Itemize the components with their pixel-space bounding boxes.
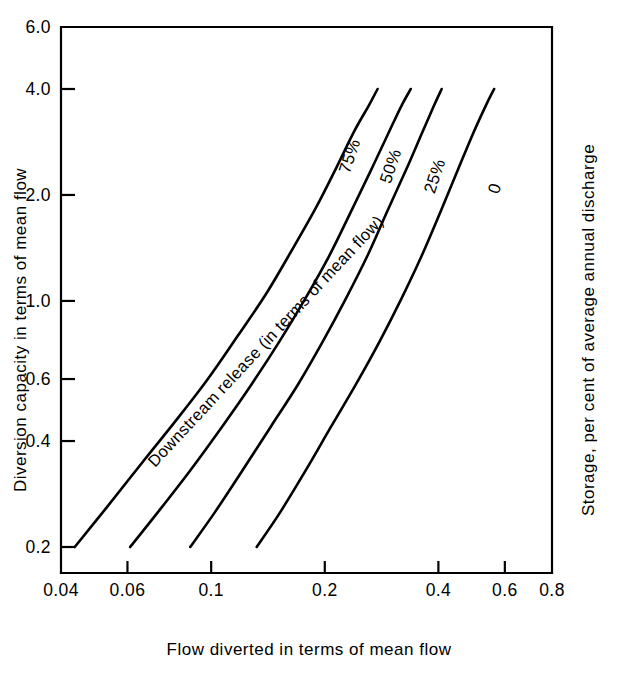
- y-tick-label: 6.0: [25, 17, 51, 37]
- x-tick-label: 0.06: [110, 580, 146, 600]
- x-tick-label: 0.4: [426, 580, 452, 600]
- y-tick-label: 0.2: [25, 537, 51, 557]
- chart-canvas: 0.040.060.10.20.40.60.8 0.20.40.61.02.04…: [0, 0, 618, 673]
- x-tick-label: 0.2: [312, 580, 338, 600]
- x-axis-title: Flow diverted in terms of mean flow: [167, 640, 452, 659]
- secondary-y-axis-title: Storage, per cent of average annual disc…: [579, 144, 598, 516]
- y-axis-title: Diversion capacity in terms of mean flow: [11, 168, 30, 492]
- x-tick-label: 0.6: [492, 580, 518, 600]
- chart-figure: 0.040.060.10.20.40.60.8 0.20.40.61.02.04…: [0, 0, 618, 673]
- x-tick-label: 0.8: [539, 580, 565, 600]
- y-tick-label: 4.0: [25, 79, 51, 99]
- x-tick-label: 0.1: [198, 580, 224, 600]
- x-tick-label: 0.04: [43, 580, 79, 600]
